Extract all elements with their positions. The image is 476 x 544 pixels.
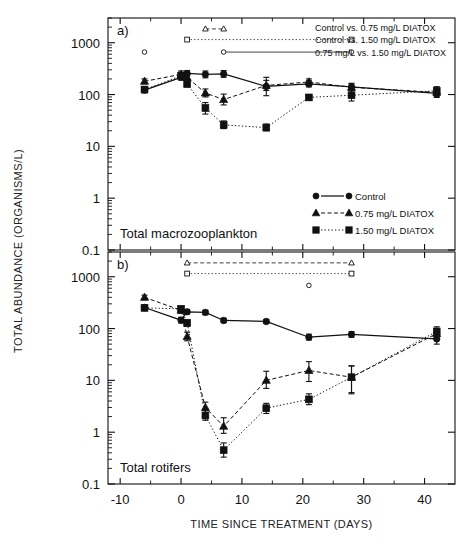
- y-tick-label: 0.1: [82, 477, 100, 492]
- series-line: [145, 297, 437, 426]
- panel-caption-b: Total rotifers: [120, 460, 191, 475]
- significance-endpoint: [349, 260, 355, 265]
- data-point-triangle: [140, 293, 148, 300]
- data-point-square: [263, 124, 270, 131]
- data-point-circle: [184, 309, 190, 315]
- significance-legend-label: Control vs. 0.75 mg/L DIATOX: [315, 23, 435, 33]
- data-point-square: [184, 320, 191, 327]
- y-tick-label: 100: [78, 322, 100, 337]
- y-tick-label: 1000: [71, 36, 100, 51]
- panel-letter-a: a): [117, 23, 129, 38]
- data-point-circle: [348, 331, 354, 337]
- series-1-50-mg-l-diatox: [141, 72, 440, 131]
- data-point-triangle: [201, 403, 209, 410]
- panel-frame-b: [108, 252, 455, 484]
- y-axis-title: TOTAL ABUNDANCE (ORGANISMS/L): [12, 149, 24, 353]
- x-tick-label: 20: [296, 492, 310, 507]
- legend-marker-square: [313, 227, 319, 233]
- significance-endpoint: [203, 26, 209, 31]
- data-point-square: [433, 87, 440, 94]
- significance-bar: [203, 26, 227, 31]
- data-point-circle: [202, 309, 208, 315]
- significance-bar: [185, 271, 354, 276]
- data-point-square: [202, 105, 209, 112]
- data-point-square: [141, 86, 148, 93]
- data-point-square: [348, 374, 355, 381]
- significance-endpoint: [349, 271, 354, 276]
- legend-marker-triangle: [312, 209, 320, 216]
- legend-marker-circle: [313, 193, 319, 199]
- y-tick-label: 1000: [71, 270, 100, 285]
- significance-bar: [184, 260, 354, 265]
- data-point-circle: [220, 317, 226, 323]
- significance-endpoint: [221, 26, 227, 31]
- data-point-square: [305, 396, 312, 403]
- data-point-square: [220, 121, 227, 128]
- y-tick-label: 1: [93, 425, 100, 440]
- data-point-square: [202, 412, 209, 419]
- data-point-triangle: [305, 366, 313, 373]
- x-tick-label: -10: [111, 492, 130, 507]
- figure-root: 0.111010010000.11101001000-10010203040TI…: [0, 0, 476, 544]
- panel-caption-a: Total macrozooplankton: [120, 226, 257, 241]
- legend-marker-triangle: [345, 209, 353, 216]
- legend-marker-square: [346, 227, 352, 233]
- significance-legend: Control vs. 0.75 mg/L DIATOXControl vs. …: [315, 23, 446, 58]
- data-point-square: [141, 305, 148, 312]
- data-point-square: [305, 94, 312, 101]
- data-point-circle: [263, 318, 269, 324]
- y-tick-label: 1: [93, 191, 100, 206]
- isolated-significance-mark: [142, 50, 147, 55]
- data-point-square: [263, 405, 270, 412]
- x-axis-title: TIME SINCE TREATMENT (DAYS): [190, 518, 372, 530]
- y-tick-label: 10: [86, 139, 100, 154]
- x-tick-label: 30: [356, 492, 370, 507]
- significance-legend-label: Control vs. 1.50 mg/L DIATOX: [315, 35, 435, 45]
- series-1-50-mg-l-diatox: [141, 305, 440, 458]
- significance-bar: [307, 283, 312, 288]
- data-point-square: [433, 328, 440, 335]
- plot-data-layer: [140, 26, 440, 457]
- data-point-square: [220, 447, 227, 454]
- series-legend: Control0.75 mg/L DIATOX1.50 mg/L DIATOX: [312, 191, 434, 236]
- significance-legend-label: 0.75 mg/L vs. 1.50 mg/L DIATOX: [315, 48, 446, 58]
- static-axes-layer: [108, 18, 455, 484]
- data-point-square: [178, 305, 185, 312]
- data-point-square: [184, 81, 191, 88]
- x-tick-label: 10: [235, 492, 249, 507]
- legend-label: 1.50 mg/L DIATOX: [355, 225, 435, 236]
- significance-endpoint: [185, 37, 190, 42]
- significance-endpoint: [307, 283, 312, 288]
- y-tick-label: 100: [78, 88, 100, 103]
- figure-text-layer: 0.111010010000.11101001000-10010203040TI…: [12, 23, 446, 531]
- significance-endpoint: [142, 50, 147, 55]
- x-tick-label: 40: [417, 492, 431, 507]
- y-tick-label: 10: [86, 373, 100, 388]
- legend-label: Control: [355, 191, 386, 202]
- significance-endpoint: [184, 260, 190, 265]
- data-point-square: [348, 92, 355, 99]
- y-tick-label: 0.1: [82, 243, 100, 258]
- legend-label: 0.75 mg/L DIATOX: [355, 208, 435, 219]
- x-tick-label: 0: [177, 492, 184, 507]
- series-line: [145, 308, 437, 450]
- data-point-circle: [306, 334, 312, 340]
- data-point-triangle: [201, 89, 209, 96]
- legend-marker-circle: [346, 193, 352, 199]
- significance-endpoint: [185, 271, 190, 276]
- panel-letter-b: b): [117, 257, 129, 272]
- data-point-square: [178, 72, 185, 79]
- data-point-circle: [202, 71, 208, 77]
- significance-endpoint: [221, 50, 226, 55]
- data-point-circle: [220, 71, 226, 77]
